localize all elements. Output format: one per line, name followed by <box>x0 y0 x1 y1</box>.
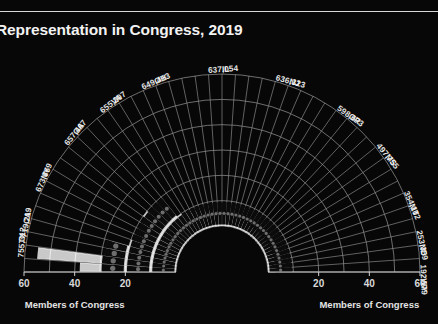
dot-markers <box>102 198 292 272</box>
axis-caption-right: Members of Congress <box>319 299 419 310</box>
state-code-IL: IL <box>222 65 230 74</box>
axis-tick-left-60: 60 <box>18 278 29 289</box>
axis-tick-left-40: 40 <box>69 278 80 289</box>
axis-tick-right-60: 60 <box>414 278 425 289</box>
axis-tick-right-40: 40 <box>364 278 375 289</box>
state-code-CA: CA <box>22 211 33 224</box>
state-code-ND: ND <box>417 243 428 257</box>
radial-bar-chart <box>0 0 438 324</box>
polar-grid <box>24 74 420 272</box>
axis-tick-left-20: 20 <box>120 278 131 289</box>
screenshot-root: Representation in Congress, 2019 755,312… <box>0 0 438 324</box>
axis-tick-right-20: 20 <box>313 278 324 289</box>
axis-caption-left: Members of Congress <box>25 299 125 310</box>
axis-lines <box>24 272 420 276</box>
